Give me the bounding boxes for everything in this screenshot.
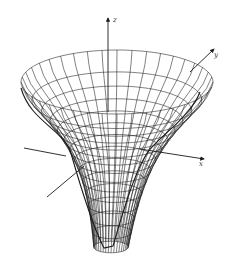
axes-front bbox=[24, 148, 204, 197]
y-axis-negative bbox=[47, 166, 84, 197]
mesh-radial-line bbox=[73, 111, 103, 253]
z-axis-label: z bbox=[113, 16, 117, 24]
mesh-radial-line bbox=[61, 108, 101, 252]
surface-silhouette bbox=[21, 88, 200, 248]
mesh-radial-line bbox=[127, 72, 208, 245]
y-axis-label: y bbox=[214, 51, 218, 59]
mesh-radial-line bbox=[121, 56, 173, 242]
surface-mesh bbox=[21, 50, 213, 253]
x-axis-negative bbox=[24, 148, 66, 156]
surface-plot bbox=[0, 0, 230, 262]
mesh-radial-line bbox=[39, 63, 97, 243]
x-axis-label: x bbox=[199, 160, 203, 168]
